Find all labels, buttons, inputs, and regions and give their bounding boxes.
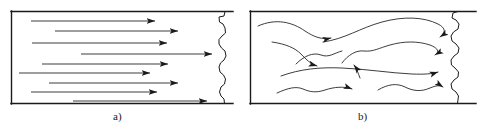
turbulent-streamline [277,87,352,93]
panel-a-caption: a) [113,110,122,122]
turbulent-streamline [258,22,331,39]
turbulent-streamline [272,42,317,66]
turbulent-streamline [323,18,444,42]
turbulent-streamline [354,65,360,78]
turbulent-streamline [281,68,438,76]
turbulent-streamline [342,42,438,63]
break-edge-b [451,12,459,104]
panel-a-laminar [11,11,233,104]
panel-b-caption: b) [358,110,367,122]
turbulent-streamline [296,51,342,64]
figure-canvas [0,0,482,133]
panel-b-turbulent [250,11,476,104]
panel-a-pipe-walls [11,11,233,104]
turbulent-streamline [378,85,443,91]
break-edge-a [219,12,226,104]
laminar-arrow-group [19,21,212,101]
turbulent-streamline-group [258,18,444,93]
flow-regime-figure: a) b) [0,0,482,133]
